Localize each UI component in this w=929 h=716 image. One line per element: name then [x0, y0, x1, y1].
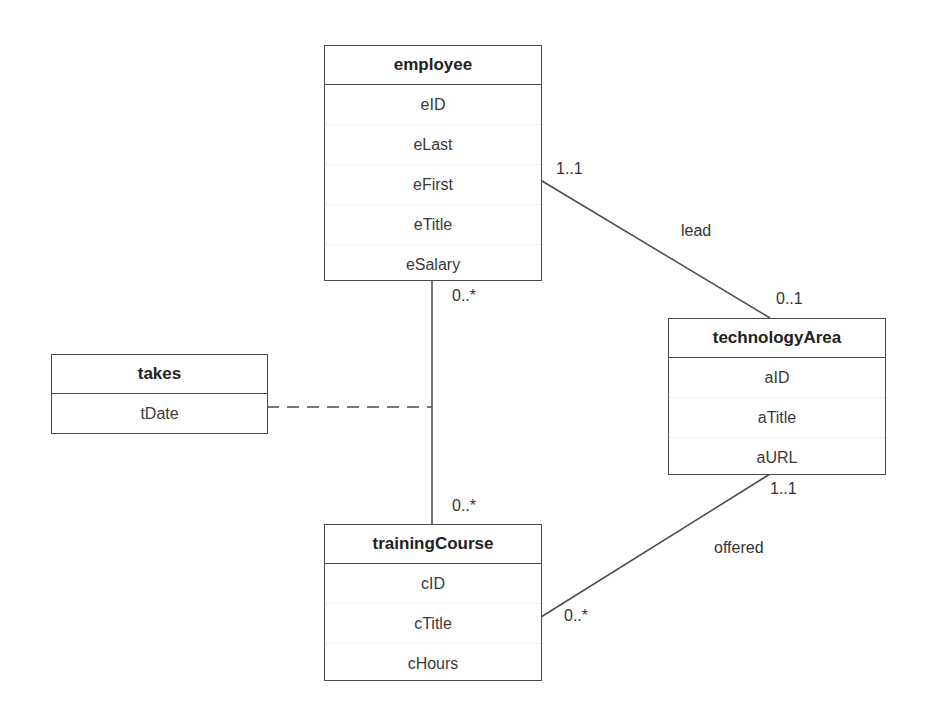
- offered-from-multiplicity: 1..1: [770, 480, 797, 498]
- offered-association-name: offered: [714, 539, 764, 557]
- attribute: eID: [325, 85, 541, 125]
- class-name: technologyArea: [669, 319, 885, 358]
- takes-to-multiplicity: 0..*: [452, 497, 476, 515]
- attribute: aURL: [669, 438, 885, 477]
- lead-from-multiplicity: 1..1: [556, 160, 583, 178]
- class-name: trainingCourse: [325, 525, 541, 564]
- class-employee[interactable]: employee eID eLast eFirst eTitle eSalary: [324, 45, 542, 281]
- attribute: aTitle: [669, 398, 885, 438]
- class-training-course[interactable]: trainingCourse cID cTitle cHours: [324, 524, 542, 681]
- attribute: eTitle: [325, 205, 541, 245]
- class-technology-area[interactable]: technologyArea aID aTitle aURL: [668, 318, 886, 475]
- class-name: takes: [52, 355, 267, 394]
- offered-to-multiplicity: 0..*: [564, 607, 588, 625]
- attribute: tDate: [52, 394, 267, 433]
- attribute: aID: [669, 358, 885, 398]
- attribute: cTitle: [325, 604, 541, 644]
- lead-association-line: [542, 181, 770, 318]
- lead-to-multiplicity: 0..1: [776, 290, 803, 308]
- attribute: cID: [325, 564, 541, 604]
- attribute: eSalary: [325, 245, 541, 284]
- takes-from-multiplicity: 0..*: [452, 287, 476, 305]
- class-name: employee: [325, 46, 541, 85]
- class-takes[interactable]: takes tDate: [51, 354, 268, 434]
- lead-association-name: lead: [681, 222, 711, 240]
- attribute: eFirst: [325, 165, 541, 205]
- uml-diagram-canvas: employee eID eLast eFirst eTitle eSalary…: [0, 0, 929, 716]
- attribute: eLast: [325, 125, 541, 165]
- attribute: cHours: [325, 644, 541, 683]
